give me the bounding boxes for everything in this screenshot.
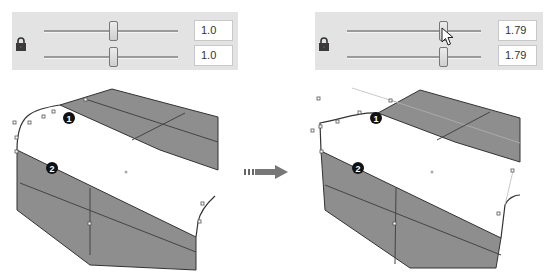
callout-2: 2 — [352, 162, 364, 174]
svg-text:1: 1 — [373, 114, 378, 124]
slider-thumb-x[interactable] — [109, 21, 118, 41]
scale-x-input[interactable]: 1.79 — [498, 20, 537, 41]
slider-thumb-y[interactable] — [439, 47, 448, 67]
scale-y-input[interactable]: 1.79 — [498, 45, 537, 66]
pointer-cursor-icon — [441, 27, 455, 47]
viewport-after[interactable]: 1 2 — [300, 80, 553, 275]
scale-y-input[interactable]: 1.0 — [194, 45, 233, 66]
arrow-right-icon — [242, 164, 290, 180]
viewport-before[interactable]: 1 2 — [0, 80, 240, 275]
slider-track-x[interactable] — [347, 30, 481, 33]
lock-icon[interactable] — [15, 37, 27, 51]
svg-text:2: 2 — [355, 164, 360, 174]
svg-text:2: 2 — [49, 164, 54, 174]
scale-x-input[interactable]: 1.0 — [194, 20, 233, 41]
callout-2: 2 — [46, 162, 58, 174]
callout-1: 1 — [63, 112, 75, 124]
scale-panel-after: 1.79 1.79 — [315, 12, 543, 70]
svg-text:1: 1 — [66, 114, 71, 124]
scale-panel-before: 1.0 1.0 — [12, 12, 238, 70]
slider-thumb-y[interactable] — [109, 47, 118, 67]
lock-icon[interactable] — [318, 37, 330, 51]
callout-1: 1 — [370, 112, 382, 124]
slider-track-y[interactable] — [347, 56, 481, 59]
